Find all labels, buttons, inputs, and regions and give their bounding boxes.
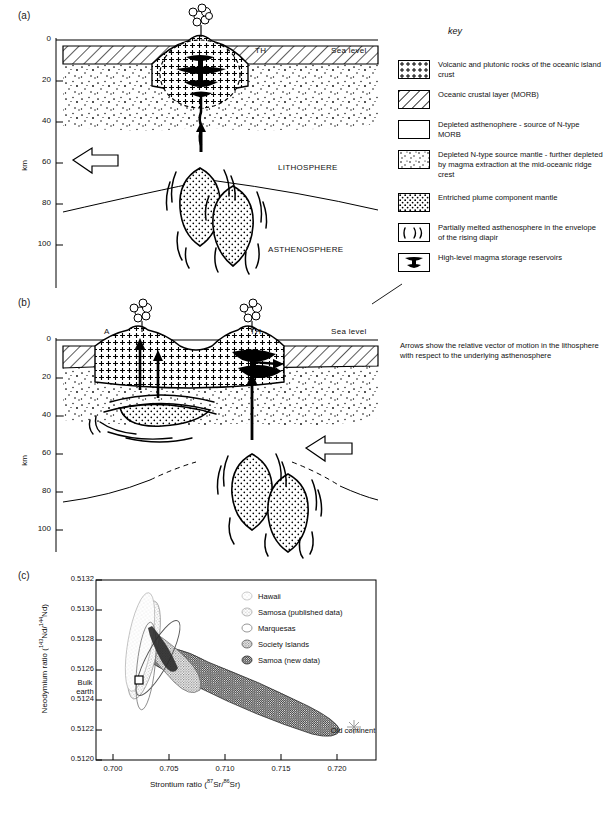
annotation-old-continent: Old continent [330, 726, 376, 735]
legend-label-marquesas: Marquesas [258, 624, 296, 633]
key-swatch-dense-stipple-icon [398, 193, 430, 212]
chart-y-axis-sup1: 143 [38, 639, 44, 648]
key-item-enriched-plume: Entriched plume component mantle [398, 193, 604, 212]
chart-ytick-3: 0.5126 [56, 664, 94, 673]
panel-a-label-th: TH [255, 46, 266, 55]
panel-b-ytick-20: 20 [33, 372, 51, 381]
chart-ytick-5: 0.5130 [56, 604, 94, 613]
key-item-depleted-asthenosphere: Depleted asthenophere - source of N-type… [398, 120, 604, 139]
chart-xtick-4: 0.720 [319, 764, 355, 773]
key-swatch-magma-reservoir-icon [398, 253, 430, 272]
key-label-partial-melt: Partially melted asthenosphere in the en… [438, 223, 604, 242]
panel-b-ytick-100: 100 [28, 524, 51, 533]
key-label-magma-reservoir: High-level magma storage reservoirs [438, 253, 562, 263]
key-swatch-fine-stipple-icon [398, 150, 430, 169]
key-arrows-note: Arrows show the relative vector of motio… [400, 341, 600, 360]
key-label-morb: Oceanic crustal layer (MORB) [438, 90, 539, 100]
key-item-morb: Oceanic crustal layer (MORB) [398, 90, 604, 109]
legend-label-samosa: Samosa (published data) [258, 608, 342, 617]
panel-a-ytick-20: 20 [33, 75, 51, 84]
key-list: Volcanic and plutonic rocks of the ocean… [398, 60, 604, 272]
panel-b-ytick-60: 60 [33, 448, 51, 457]
panel-a-ytick-80: 80 [33, 198, 51, 207]
key-label-depleted-asthenosphere: Depleted asthenophere - source of N-type… [438, 120, 604, 139]
panel-a-ytick-40: 40 [33, 116, 51, 125]
panel-b-ytick-0: 0 [33, 334, 51, 343]
chart-ytick-0: 0.5120 [56, 754, 94, 763]
legend-label-society-islands: Society Islands [258, 640, 309, 649]
key-item-magma-reservoir: High-level magma storage reservoirs [398, 253, 604, 272]
panel-a-label-asthenosphere: ASTHENOSPHERE [268, 245, 343, 254]
key-title: key [448, 26, 462, 36]
chart-y-axis-mid: Nd/ [40, 626, 49, 638]
chart-xtick-1: 0.705 [151, 764, 187, 773]
key-item-depleted-ntype: Depleted N-type source mantle - further … [398, 150, 604, 179]
key-label-volcanic-plutonic: Volcanic and plutonic rocks of the ocean… [438, 60, 604, 79]
annotation-bulk-earth: Bulk earth [68, 678, 102, 696]
key-swatch-volcanic-plutonic-icon [398, 60, 430, 79]
chart-x-axis-title: Strontium ratio (87Sr/86Sr) [150, 780, 240, 789]
panel-b-ytick-40: 40 [33, 410, 51, 419]
panel-b-label-sea-level: Sea level [331, 327, 367, 336]
key-item-partial-melt: Partially melted asthenosphere in the en… [398, 223, 604, 242]
chart-y-axis-pre: Neodymium ratio ( [40, 648, 49, 713]
chart-xtick-2: 0.710 [207, 764, 243, 773]
legend-label-hawaii: Hawaii [258, 592, 281, 601]
key-swatch-partial-melt-icon [398, 223, 430, 242]
panel-b-label-th: TH [250, 327, 261, 336]
key-swatch-blank-icon [398, 120, 430, 139]
chart-y-axis-sup2: 144 [38, 617, 44, 626]
chart-y-axis-post: Nd) [40, 604, 49, 617]
chart-ytick-6: 0.5132 [56, 574, 94, 583]
panel-a-ytick-60: 60 [33, 157, 51, 166]
chart-y-axis-title: Neodymium ratio (143Nd/144Nd) [40, 604, 49, 713]
key-swatch-morb-icon [398, 90, 430, 109]
chart-x-axis-post: Sr) [230, 780, 241, 789]
chart-x-axis-mid: Sr/ [213, 780, 223, 789]
panel-a-label-sea-level: Sea level [331, 46, 367, 55]
panel-a-diagram [0, 0, 400, 300]
bulk-earth-marker [135, 676, 143, 684]
legend-label-samoa-new: Samoa (new data) [258, 656, 320, 665]
chart-xtick-3: 0.715 [263, 764, 299, 773]
chart-x-axis-pre: Strontium ratio ( [150, 780, 207, 789]
key-item-volcanic-plutonic: Volcanic and plutonic rocks of the ocean… [398, 60, 604, 79]
key-label-enriched-plume: Entriched plume component mantle [438, 193, 557, 203]
key-label-depleted-ntype: Depleted N-type source mantle - further … [438, 150, 604, 179]
panel-b-label-a: A [104, 327, 110, 336]
chart-xtick-0: 0.700 [95, 764, 131, 773]
panel-b-ytick-80: 80 [33, 486, 51, 495]
panel-a-ytick-100: 100 [28, 239, 51, 248]
chart-ytick-1: 0.5122 [56, 724, 94, 733]
panel-c-letter: (c) [18, 570, 30, 581]
panel-a-y-axis-label: km [20, 160, 29, 171]
panel-a-label-lithosphere: LITHOSPHERE [278, 163, 338, 172]
panel-b-y-axis-label: km [20, 455, 29, 466]
chart-ytick-4: 0.5128 [56, 634, 94, 643]
panel-a-ytick-0: 0 [33, 34, 51, 43]
